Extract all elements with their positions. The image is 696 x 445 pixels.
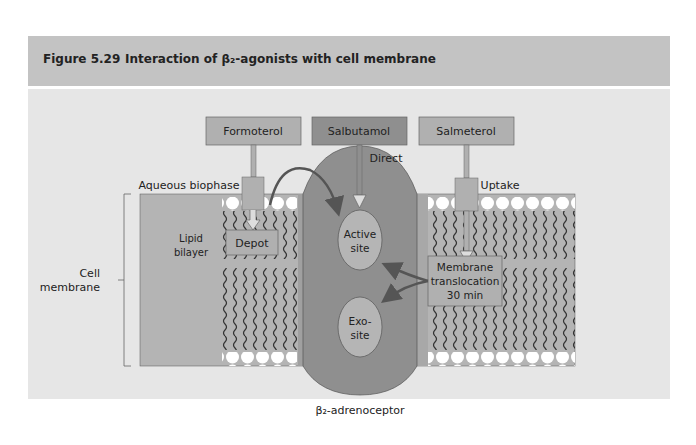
- salbutamol-label: Salbutamol: [328, 125, 390, 138]
- aqueous-biophase-label: Aqueous biophase: [139, 179, 240, 192]
- membrane-translocation-label-2: translocation: [431, 275, 500, 287]
- lipid-label: Lipid: [179, 233, 203, 244]
- membrane-translocation-label-1: Membrane: [437, 261, 493, 273]
- direct-label: Direct: [370, 152, 404, 165]
- cell-membrane-bracket: [118, 194, 131, 366]
- bilayer-label: bilayer: [174, 247, 209, 258]
- uptake-label: Uptake: [481, 179, 520, 192]
- exo-site-label-2: site: [351, 329, 370, 341]
- formoterol-label: Formoterol: [223, 125, 283, 138]
- diagram-svg: Formoterol Salbutamol Salmeterol Direct …: [0, 0, 696, 445]
- salmeterol-label: Salmeterol: [436, 125, 495, 138]
- membrane-translocation-label-3: 30 min: [447, 289, 484, 301]
- active-site: [338, 210, 382, 270]
- depot-label: Depot: [235, 237, 269, 250]
- cell-label: Cell: [79, 267, 100, 280]
- exo-site: [338, 297, 382, 357]
- membrane-left: [140, 194, 305, 366]
- active-site-label-1: Active: [344, 228, 376, 240]
- exo-site-label-1: Exo-: [349, 315, 372, 327]
- active-site-label-2: site: [351, 242, 370, 254]
- receptor-label: β₂-adrenoceptor: [315, 404, 405, 417]
- membrane-label: membrane: [40, 281, 100, 294]
